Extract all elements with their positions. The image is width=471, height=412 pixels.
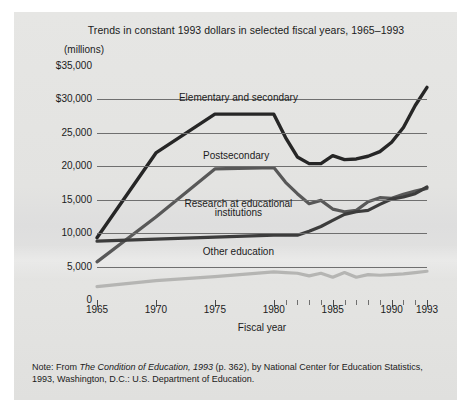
y-axis-tick-label: 5,000 (22, 261, 92, 272)
x-axis-tick-label: 1975 (204, 304, 226, 315)
note-italic-title: The Condition of Education, 1993 (80, 362, 214, 372)
x-axis-tick-labels: 1965197019751980198519901993 (97, 304, 427, 318)
gridline (97, 133, 427, 134)
chart-title: Trends in constant 1993 dollars in selec… (56, 24, 436, 37)
note-prefix: Note: From (32, 362, 80, 372)
series-line (97, 271, 427, 286)
series-annotation-label: Elementary and secondary (179, 92, 298, 104)
series-annotation-label: Postsecondary (203, 150, 269, 162)
y-axis-tick-label: 20,000 (22, 160, 92, 171)
x-axis-tick-label: 1993 (416, 304, 438, 315)
y-axis-tick-label: 15,000 (22, 194, 92, 205)
y-axis-tick-label: $35,000 (22, 60, 92, 71)
gridline (97, 233, 427, 234)
x-axis-title: Fiscal year (97, 322, 427, 333)
x-axis-tick-label: 1970 (145, 304, 167, 315)
source-note: Note: From The Condition of Education, 1… (32, 362, 432, 385)
x-axis-tick-label: 1990 (381, 304, 403, 315)
x-axis-tick-label: 1980 (263, 304, 285, 315)
y-axis-tick-label: $30,000 (22, 93, 92, 104)
y-axis-zero-label: 0 (22, 294, 92, 305)
y-axis-tick-label: 10,000 (22, 227, 92, 238)
gridline (97, 267, 427, 268)
y-axis-tick-label: 25,000 (22, 127, 92, 138)
figure-page: Trends in constant 1993 dollars in selec… (0, 0, 471, 412)
gridline (97, 166, 427, 167)
series-annotation-label: institutions (215, 207, 262, 219)
x-axis-tick-label: 1965 (86, 304, 108, 315)
series-annotation-label: Other education (203, 246, 274, 258)
y-axis-tick-labels: $35,000$30,00025,00020,00015,00010,0005,… (22, 66, 92, 300)
x-axis-tick-label: 1985 (322, 304, 344, 315)
y-axis-units-label: (millions) (32, 44, 104, 55)
